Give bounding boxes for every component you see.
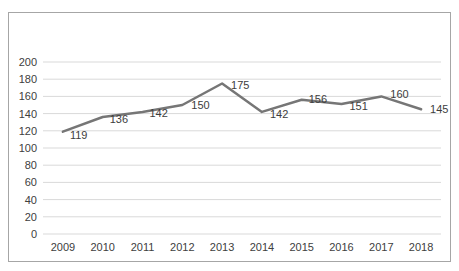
y-tick-label: 100 <box>19 142 37 154</box>
y-tick-label: 180 <box>19 73 37 85</box>
data-label: 175 <box>231 79 249 91</box>
x-tick-label: 2012 <box>170 241 194 253</box>
x-tick-label: 2017 <box>369 241 393 253</box>
y-tick-label: 0 <box>31 228 37 240</box>
data-label: 160 <box>390 88 408 100</box>
data-label: 150 <box>191 99 209 111</box>
y-tick-label: 40 <box>25 194 37 206</box>
data-label: 142 <box>150 107 168 119</box>
x-tick-label: 2013 <box>210 241 234 253</box>
y-tick-label: 60 <box>25 176 37 188</box>
x-tick-label: 2016 <box>329 241 353 253</box>
x-tick-label: 2015 <box>289 241 313 253</box>
y-tick-label: 120 <box>19 125 37 137</box>
y-tick-label: 20 <box>25 211 37 223</box>
data-label: 151 <box>350 100 368 112</box>
line-chart: 0204060801001201401601802002009201020112… <box>9 13 450 261</box>
chart-frame: 0204060801001201401601802002009201020112… <box>8 12 451 262</box>
x-tick-label: 2011 <box>131 241 155 253</box>
y-tick-label: 160 <box>19 90 37 102</box>
data-label: 145 <box>430 103 448 115</box>
y-tick-label: 200 <box>19 56 37 68</box>
data-label: 142 <box>270 108 288 120</box>
x-tick-label: 2010 <box>90 241 114 253</box>
y-tick-label: 80 <box>25 159 37 171</box>
data-label: 119 <box>70 129 88 141</box>
x-tick-label: 2009 <box>51 241 75 253</box>
y-tick-label: 140 <box>19 108 37 120</box>
x-tick-label: 2014 <box>250 241 274 253</box>
data-label: 136 <box>110 113 128 125</box>
x-tick-label: 2018 <box>409 241 433 253</box>
data-label: 156 <box>309 93 327 105</box>
